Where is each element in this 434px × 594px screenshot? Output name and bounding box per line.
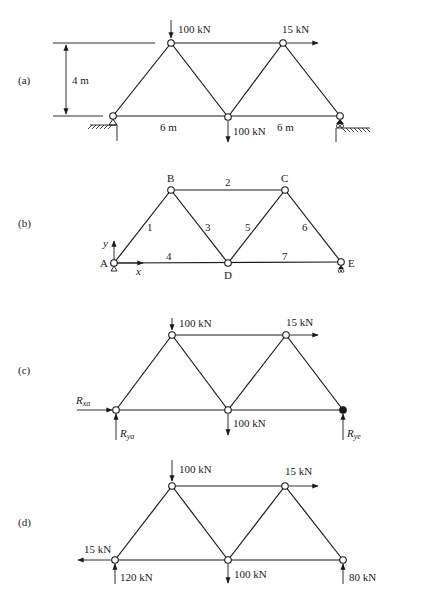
roller-support-icon xyxy=(336,119,370,142)
node-d xyxy=(225,114,232,121)
node-d xyxy=(225,407,232,414)
node-e xyxy=(340,557,347,564)
node-c xyxy=(282,483,289,490)
load-label-c: 15 kN xyxy=(282,23,309,35)
truss-figure: (a) 4 m xyxy=(0,0,434,594)
node-d xyxy=(225,557,232,564)
reaction-label-ey: 80 kN xyxy=(349,571,376,583)
member-label-6: 6 xyxy=(302,221,308,233)
load-label-b: 100 kN xyxy=(179,317,212,329)
load-label-b: 100 kN xyxy=(179,463,212,475)
reaction-label-rxa: Rxa xyxy=(75,394,90,408)
reaction-label-rye: Rye xyxy=(346,427,361,441)
panel-label-c: (c) xyxy=(18,364,31,377)
node-label-b: B xyxy=(167,172,174,184)
reaction-label-rya: Rya xyxy=(119,427,134,441)
node-b xyxy=(169,332,176,339)
node-e xyxy=(338,259,345,266)
load-label-b: 100 kN xyxy=(178,23,211,35)
panel-label-d: (d) xyxy=(18,516,31,529)
member-label-1: 1 xyxy=(147,221,153,233)
load-label-d: 100 kN xyxy=(234,568,267,580)
span-label-right: 6 m xyxy=(277,121,294,133)
node-e xyxy=(340,407,347,414)
node-d xyxy=(225,260,232,267)
x-axis-label: x xyxy=(135,265,141,277)
node-a xyxy=(110,113,117,120)
member-label-7: 7 xyxy=(282,250,288,262)
node-label-e: E xyxy=(348,257,355,269)
load-label-c: 15 kN xyxy=(286,316,313,328)
roller-support-icon xyxy=(338,265,344,272)
node-label-c: C xyxy=(281,172,288,184)
member-label-2: 2 xyxy=(225,176,231,188)
y-axis-label: y xyxy=(102,237,108,249)
panel-c: (c) 100 kN 15 kN 100 kN Rxa Rya Rye xyxy=(18,316,361,441)
node-b xyxy=(168,187,175,194)
load-label-d: 100 kN xyxy=(233,417,266,429)
node-b xyxy=(169,483,176,490)
pin-support-icon xyxy=(88,119,117,141)
load-label-c: 15 kN xyxy=(285,465,312,477)
node-c xyxy=(282,187,289,194)
panel-label-b: (b) xyxy=(18,217,31,230)
truss-members-c xyxy=(116,335,343,410)
panel-b: (b) y x A B C D E 1 xyxy=(18,172,355,281)
node-c xyxy=(283,332,290,339)
member-label-4: 4 xyxy=(166,250,172,262)
node-a xyxy=(112,557,119,564)
node-label-d: D xyxy=(224,269,232,281)
load-label-d: 100 kN xyxy=(233,125,266,137)
node-b xyxy=(168,40,175,47)
node-e xyxy=(337,113,344,120)
panel-label-a: (a) xyxy=(18,74,31,87)
truss-members-d xyxy=(115,486,343,560)
node-c xyxy=(280,40,287,47)
node-a xyxy=(113,407,120,414)
member-label-3: 3 xyxy=(205,221,211,233)
member-label-5: 5 xyxy=(245,221,251,233)
panel-a: (a) 4 m xyxy=(18,20,370,142)
span-label-left: 6 m xyxy=(160,121,177,133)
panel-d: (d) 100 kN 15 kN 100 kN 15 kN 120 kN 80 … xyxy=(18,460,376,584)
truss-members-a xyxy=(113,43,340,117)
node-a xyxy=(111,260,118,267)
height-dimension-label: 4 m xyxy=(72,74,89,86)
reaction-label-ay: 120 kN xyxy=(120,571,153,583)
node-label-a: A xyxy=(100,257,108,269)
reaction-label-ax: 15 kN xyxy=(84,543,111,555)
